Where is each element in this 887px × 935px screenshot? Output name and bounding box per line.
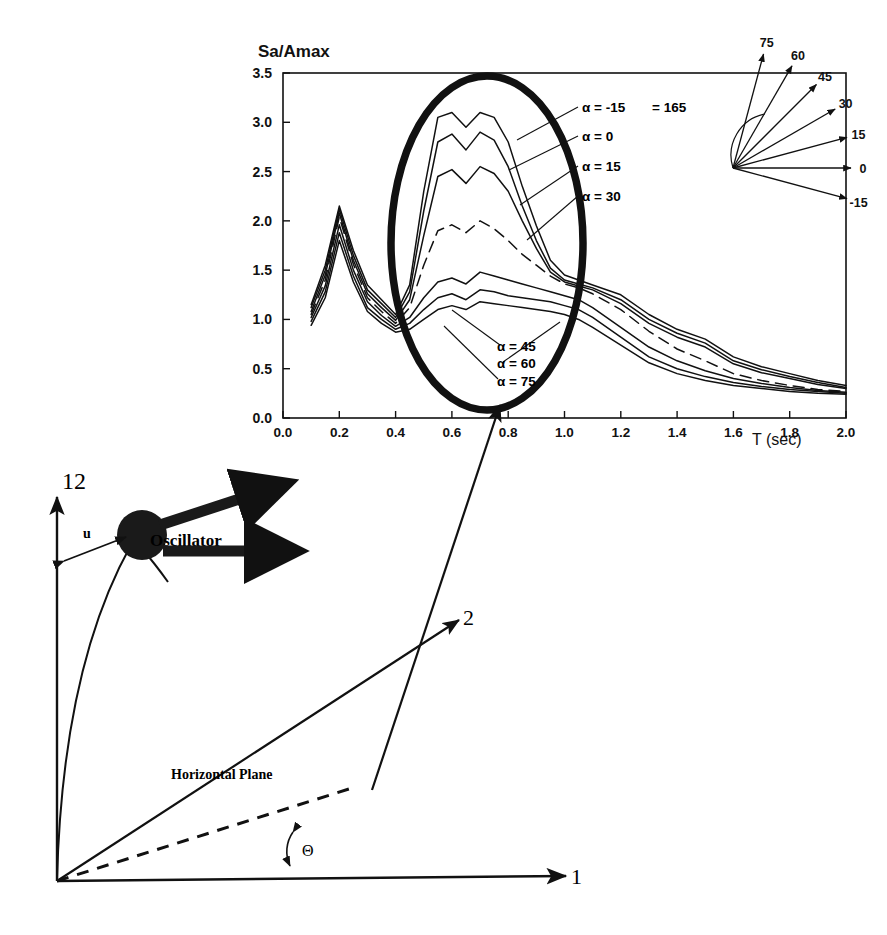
y-axis-label: Sa/Amax — [258, 42, 330, 61]
y-tick-label: 1.5 — [253, 262, 273, 278]
oscillator-stem — [57, 545, 131, 881]
x-tick-label: 1.8 — [780, 425, 799, 440]
y-tick-label: 0.0 — [253, 410, 273, 426]
u-label: u — [83, 526, 91, 541]
fan-ray-label-30: 30 — [839, 97, 853, 111]
axis-2-line — [57, 620, 459, 881]
y-tick-label: 1.0 — [253, 311, 273, 327]
y-tick-label: 3.0 — [253, 114, 273, 130]
axis-1-line — [57, 876, 566, 881]
fan-ray-label-15: 15 — [852, 128, 866, 142]
fan-ray-15 — [733, 137, 847, 168]
x-tick-label: 0.6 — [443, 425, 462, 440]
oscillator-orientation-diagram: 1 2 12 Horizontal Plane Θ Oscillator u — [57, 468, 582, 889]
alpha-leader-lines-upper — [509, 107, 578, 240]
fan-ray-45 — [733, 85, 816, 168]
alpha-label-minus15: α = -15 — [582, 100, 626, 115]
angle-fan-inset: 75604530150-15 — [731, 36, 868, 209]
y-tick-label: 3.5 — [253, 65, 273, 81]
alpha-label-60: α = 60 — [497, 356, 536, 371]
x-tick-label: 1.6 — [724, 425, 743, 440]
y-axis-ticks: 0.00.51.01.52.02.53.03.5 — [253, 65, 290, 426]
fan-ray-75 — [733, 54, 764, 168]
axis-12-label: 12 — [62, 468, 86, 494]
x-tick-label: 2.0 — [837, 425, 856, 440]
ground-motion-arrow-oblique — [160, 489, 270, 525]
highlight-ellipse — [391, 76, 583, 410]
fan-ray-60 — [733, 66, 792, 168]
x-tick-label: 0.0 — [274, 425, 293, 440]
theta-label: Θ — [302, 842, 314, 859]
y-tick-label: 2.0 — [253, 213, 273, 229]
fan-ray-label-0: 0 — [860, 162, 867, 176]
alpha-label-0: α = 0 — [582, 129, 613, 144]
x-tick-label: 1.2 — [611, 425, 630, 440]
horizontal-plane-label: Horizontal Plane — [171, 767, 273, 782]
x-tick-label: 1.0 — [555, 425, 574, 440]
alpha-label-15: α = 15 — [582, 159, 621, 174]
fan-ray-30 — [733, 109, 835, 168]
x-tick-label: 0.2 — [330, 425, 349, 440]
fan-ray--15 — [733, 168, 847, 199]
horizontal-plane-line — [57, 789, 349, 881]
y-tick-label: 2.5 — [253, 164, 273, 180]
y-tick-label: 0.5 — [253, 361, 273, 377]
x-tick-label: 0.8 — [499, 425, 518, 440]
callout-arrow — [372, 405, 500, 790]
axis-2-label: 2 — [463, 605, 474, 630]
alpha-label-45: α = 45 — [497, 339, 536, 354]
axis-1-label: 1 — [571, 864, 582, 889]
fan-ray-label--15: -15 — [850, 196, 868, 210]
x-tick-label: 0.4 — [386, 425, 405, 440]
x-tick-label: 1.4 — [668, 425, 687, 440]
fan-ray-label-45: 45 — [818, 70, 832, 84]
spectrum-chart: Sa/Amax T (sec) 0.00.51.01.52.02.53.03.5… — [253, 42, 856, 448]
figure-root: Sa/Amax T (sec) 0.00.51.01.52.02.53.03.5… — [0, 0, 887, 935]
alpha-label-30: α = 30 — [582, 189, 621, 204]
alpha-label-minus15-alt: = 165 — [652, 100, 687, 115]
alpha-label-75: α = 75 — [497, 374, 536, 389]
u-displacement-arrow — [64, 537, 126, 561]
theta-arc — [287, 832, 293, 866]
fan-ray-label-75: 75 — [760, 36, 774, 50]
fan-ray-label-60: 60 — [791, 49, 805, 63]
